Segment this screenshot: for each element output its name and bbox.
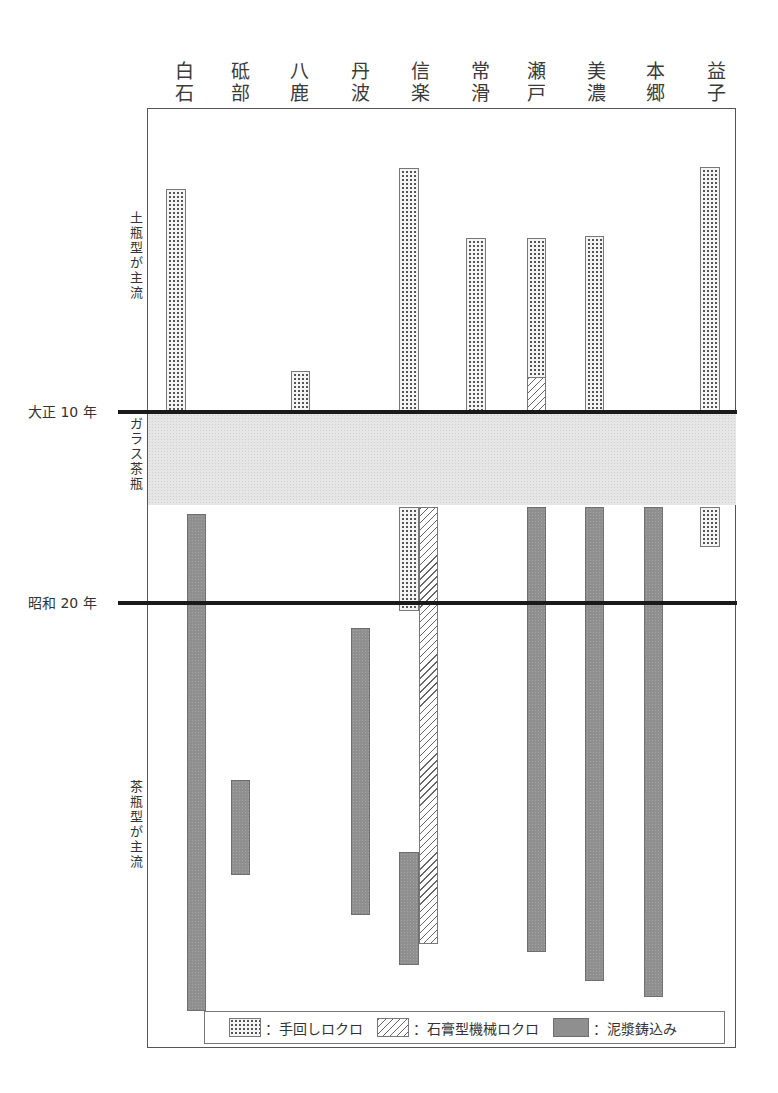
legend-label: ：泥漿鋳込み [593,1018,677,1038]
bar-mashiko-hand-wheel-pre [700,167,720,411]
column-label-tokoname: 常滑 [465,60,495,104]
era-label-showa20: 昭和 20 年 [28,595,97,611]
dot-pattern-swatch-icon [229,1018,261,1037]
band-label-glass: ガ ラ ス 茶 瓶 [128,416,144,491]
label-char: 鹿 [284,82,314,104]
label-char: 本 [640,60,670,82]
label-char: 白 [169,60,199,82]
bar-mino-hand-wheel [585,236,604,411]
label-char: 茶 [128,461,144,476]
bar-shiraishi-hand-wheel [166,189,186,411]
column-label-mashiko: 益子 [701,60,731,104]
period-label-chabin: 茶 瓶 型 が 主 流 [128,779,144,869]
label-char: 瀬 [521,60,551,82]
label-char: 益 [701,60,731,82]
label-char: 常 [465,60,495,82]
bar-shigaraki-hand-wheel-pre [399,168,419,411]
label-char: 楽 [405,82,435,104]
label-char: 郷 [640,82,670,104]
label-char: 瓶 [128,476,144,491]
label-char: 濃 [581,82,611,104]
bar-hongo-slip-casting [644,507,663,997]
grey-fill-swatch-icon [553,1018,589,1037]
era-line-taisho10 [118,410,737,414]
label-char: 部 [225,82,255,104]
label-char: 主 [128,839,144,854]
bar-seto-hand-wheel [527,238,546,378]
label-char: が [128,824,144,839]
bar-shigaraki-hand-wheel-post [399,507,419,611]
legend-item-hand-wheel: ：手回しロクロ [229,1018,363,1038]
label-char: 瓶 [128,225,144,240]
legend-label: ：手回しロクロ [265,1018,363,1038]
label-char: 型 [128,240,144,255]
column-label-seto: 瀬戸 [521,60,551,104]
label-char: 土 [128,210,144,225]
label-char: 美 [581,60,611,82]
column-label-youka: 八鹿 [284,60,314,104]
period-label-dobin: 土 瓶 型 が 主 流 [128,210,144,300]
label-char: 主 [128,270,144,285]
label-char: 丹 [345,60,375,82]
label-char: 信 [405,60,435,82]
label-char: 瓶 [128,794,144,809]
label-char: 型 [128,809,144,824]
bar-tanba-slip-casting [351,628,370,915]
label-char: 波 [345,82,375,104]
bar-shigaraki-plaster-machine [419,507,438,944]
label-char: ス [128,446,144,461]
label-char: 砥 [225,60,255,82]
bar-shigaraki-slip-casting [399,852,419,965]
column-label-mino: 美濃 [581,60,611,104]
label-char: 茶 [128,779,144,794]
legend: ：手回しロクロ ：石膏型機械ロクロ ：泥漿鋳込み [204,1011,725,1044]
label-char: 石 [169,82,199,104]
column-label-shiraishi: 白石 [169,60,199,104]
bar-mashiko-hand-wheel-post [700,507,720,547]
era-label-taisho10: 大正 10 年 [28,404,97,420]
column-label-shigaraki: 信楽 [405,60,435,104]
glass-teapot-band [148,414,736,505]
label-char: 滑 [465,82,495,104]
label-char: ラ [128,431,144,446]
label-char: 子 [701,82,731,104]
legend-item-slip-casting: ：泥漿鋳込み [553,1018,677,1038]
column-label-tobe: 砥部 [225,60,255,104]
bar-tokoname-hand-wheel [466,238,486,411]
hatch-pattern-swatch-icon [377,1018,409,1037]
bar-mino-slip-casting [585,507,604,981]
column-label-tanba: 丹波 [345,60,375,104]
label-char: 流 [128,285,144,300]
bar-tobe-slip-casting [231,780,250,875]
column-label-hongo: 本郷 [640,60,670,104]
bar-seto-slip-casting [527,507,546,952]
label-char: が [128,255,144,270]
legend-item-plaster-machine: ：石膏型機械ロクロ [377,1018,539,1038]
bar-shiraishi-slip-casting [187,514,206,1011]
legend-label: ：石膏型機械ロクロ [413,1018,539,1038]
label-char: 八 [284,60,314,82]
label-char: ガ [128,416,144,431]
bar-seto-plaster-machine [527,377,546,411]
bar-youka-hand-wheel [291,371,310,411]
label-char: 戸 [521,82,551,104]
label-char: 流 [128,854,144,869]
era-line-showa20 [118,601,737,605]
